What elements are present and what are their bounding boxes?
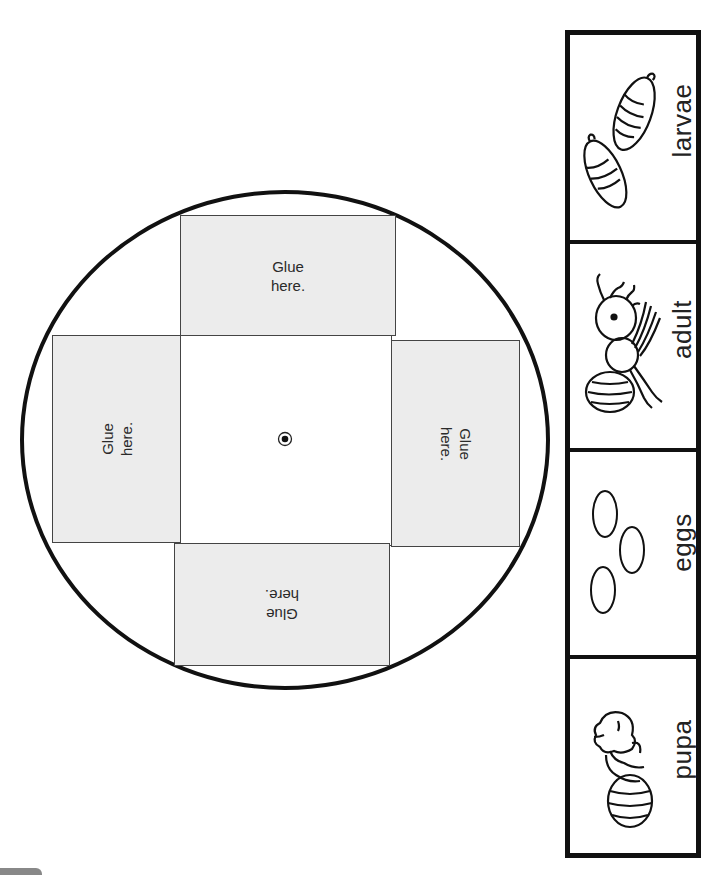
glue-text-line1: Glue (456, 426, 475, 460)
larvae-icon (578, 65, 668, 219)
card-label-pupa: pupa (667, 700, 698, 800)
card-eggs: eggs (570, 448, 696, 655)
adult-ant-icon (574, 270, 669, 424)
brad-hole-icon (277, 431, 293, 447)
glue-panel-top: Glue here. (180, 215, 396, 336)
glue-text-line2: here. (265, 586, 299, 605)
eggs-icon (588, 490, 658, 629)
card-pupa: pupa (570, 655, 696, 858)
card-label-larvae: larvae (667, 71, 698, 171)
glue-text-line2: here. (117, 422, 136, 456)
glue-label-left: Glue here. (98, 422, 136, 456)
glue-label-right: Glue here. (437, 426, 475, 460)
glue-panel-right: Glue here. (391, 340, 520, 547)
card-adult: adult (570, 240, 696, 448)
glue-label-top: Glue here. (271, 257, 305, 295)
glue-label-bottom: Glue here. (265, 586, 299, 624)
card-label-eggs: eggs (667, 493, 698, 593)
life-cycle-card-strip: larvae adult eggs (565, 30, 701, 858)
glue-text-line2: here. (271, 276, 305, 295)
page-corner-tab (0, 868, 42, 875)
wheel-center-square (180, 335, 392, 546)
glue-text-line1: Glue (265, 605, 299, 624)
glue-panel-bottom: Glue here. (174, 543, 390, 666)
glue-panel-left: Glue here. (52, 335, 181, 543)
pupa-icon (580, 703, 665, 837)
card-larvae: larvae (570, 35, 696, 240)
glue-text-line2: here. (437, 426, 456, 460)
glue-text-line1: Glue (98, 422, 117, 456)
glue-text-line1: Glue (271, 257, 305, 276)
card-label-adult: adult (667, 280, 698, 380)
